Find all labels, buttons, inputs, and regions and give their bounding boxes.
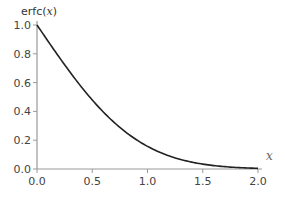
x-axis-label: x [266,149,273,163]
y-axis: 0.00.20.40.60.81.0 [14,19,38,176]
x-tick-label: 0.0 [28,175,46,188]
y-tick-label: 0.8 [14,48,32,61]
y-tick-label: 1.0 [14,19,32,32]
x-tick-label: 1.5 [194,175,212,188]
x-axis: 0.00.51.01.52.0 [28,169,267,188]
y-tick-label: 0.6 [14,77,32,90]
erfc-chart: 0.00.20.40.60.81.0 0.00.51.01.52.0 erfc(… [0,0,285,200]
erfc-curve [37,25,258,168]
x-tick-label: 2.0 [249,175,267,188]
y-axis-label: erfc(x) [21,5,57,18]
y-tick-label: 0.2 [14,134,32,147]
x-tick-label: 0.5 [84,175,102,188]
x-tick-label: 1.0 [139,175,157,188]
y-tick-label: 0.4 [14,105,32,118]
